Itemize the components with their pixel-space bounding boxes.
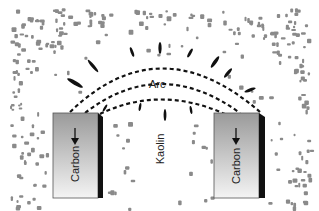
arc-kaolin-diagram [0, 0, 319, 211]
arc-paths [70, 69, 260, 115]
arc-label: Arc [149, 78, 166, 90]
kaolin-label: Kaolin [154, 129, 166, 169]
carbon-right-label: Carbon [230, 146, 242, 186]
carbon-left-label: Carbon [69, 144, 81, 184]
